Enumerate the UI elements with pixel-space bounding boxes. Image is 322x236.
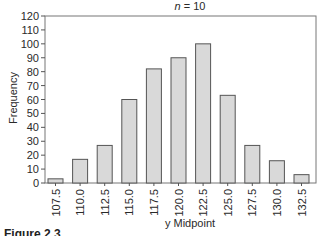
y-tick-label: 60: [27, 94, 39, 106]
plot-area: 0102030405060708090100110120107.5110.011…: [0, 0, 322, 236]
bar: [245, 145, 260, 183]
x-tick-label: 125.0: [222, 189, 234, 217]
y-tick-label: 50: [27, 107, 39, 119]
x-tick-label: 132.5: [296, 189, 308, 217]
x-tick-label: 122.5: [197, 189, 209, 217]
bar: [294, 175, 309, 183]
bar: [97, 145, 112, 183]
x-tick-label: 110.0: [74, 189, 86, 216]
y-tick-label: 70: [27, 80, 39, 92]
x-tick-label: 112.5: [99, 189, 111, 216]
y-tick-label: 80: [27, 66, 39, 78]
y-tick-label: 110: [21, 24, 39, 36]
y-tick-label: 20: [27, 149, 39, 161]
x-tick-label: 115.0: [123, 189, 135, 216]
figure-caption: Figure 2.3 ...: [4, 227, 74, 236]
bar: [196, 44, 211, 183]
y-tick-label: 90: [27, 52, 39, 64]
bar: [146, 69, 161, 183]
y-tick-label: 10: [27, 163, 39, 175]
bar: [269, 161, 284, 183]
bar: [122, 100, 137, 184]
x-tick-label: 117.5: [148, 189, 160, 216]
bar: [220, 95, 235, 183]
y-tick-label: 0: [33, 177, 39, 189]
x-tick-label: 127.5: [246, 189, 258, 217]
x-tick-label: 107.5: [50, 189, 62, 217]
y-tick-label: 30: [27, 135, 39, 147]
histogram-chart: n = 10 Frequency y Midpoint 010203040506…: [0, 0, 322, 236]
bar: [48, 179, 63, 183]
y-tick-label: 40: [27, 121, 39, 133]
bar: [73, 159, 88, 183]
x-tick-label: 130.0: [271, 189, 283, 217]
x-tick-label: 120.0: [173, 189, 185, 217]
y-tick-label: 120: [21, 10, 39, 22]
bar: [171, 58, 186, 183]
y-tick-label: 100: [21, 38, 39, 50]
